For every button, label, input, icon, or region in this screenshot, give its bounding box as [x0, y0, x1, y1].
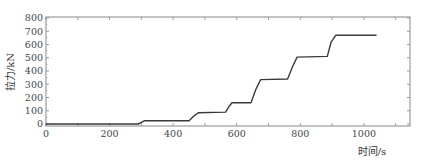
y-axis-title: 拉力/kN: [4, 53, 16, 91]
y-tick-label: 200: [25, 92, 43, 103]
step-load-chart: 0100200300400500600700800 02004006008001…: [0, 0, 422, 164]
x-tick-label: 600: [228, 128, 246, 139]
x-tick-label: 400: [164, 128, 182, 139]
load-series-line: [46, 35, 377, 124]
y-tick-label: 800: [25, 12, 43, 23]
y-tick-label: 600: [25, 39, 43, 50]
x-tick-label: 800: [291, 128, 309, 139]
y-tick-label: 400: [25, 65, 43, 76]
x-tick-label: 200: [101, 128, 119, 139]
x-tick-label: 0: [43, 128, 49, 139]
x-tick-label: 1000: [352, 128, 376, 139]
x-axis-title: 时间/s: [358, 145, 387, 157]
y-tick-label: 500: [25, 52, 43, 63]
y-tick-label: 700: [25, 26, 43, 37]
plot-frame: [46, 17, 410, 126]
y-tick-label: 300: [25, 79, 43, 90]
y-tick-label: 100: [25, 105, 43, 116]
